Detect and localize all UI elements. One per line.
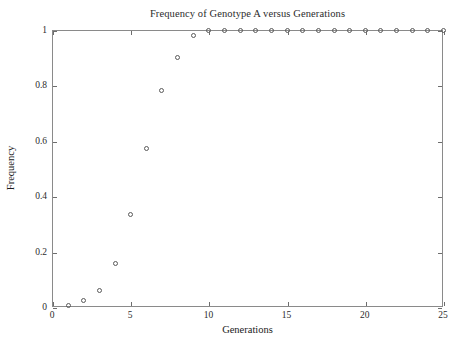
- data-point-marker: [113, 261, 118, 266]
- data-point-marker: [425, 28, 430, 33]
- y-tick-mark: [53, 86, 57, 87]
- y-tick-mark: [438, 197, 442, 198]
- x-tick-label: 10: [204, 310, 214, 320]
- x-tick-mark: [444, 302, 445, 306]
- data-point-marker: [144, 146, 149, 151]
- x-tick-label: 5: [128, 310, 133, 320]
- y-tick-mark: [438, 253, 442, 254]
- data-series-markers: [53, 31, 442, 306]
- data-point-marker: [394, 28, 399, 33]
- y-axis-label: Frequency: [5, 146, 16, 190]
- x-tick-mark: [444, 31, 445, 35]
- x-tick-mark: [366, 302, 367, 306]
- y-tick-label: 1: [42, 25, 47, 35]
- data-point-marker: [300, 28, 305, 33]
- data-point-marker: [81, 298, 86, 303]
- y-tick-label: 0.4: [35, 191, 47, 201]
- y-tick-mark: [53, 142, 57, 143]
- x-tick-mark: [53, 302, 54, 306]
- y-tick-label: 0.6: [35, 136, 47, 146]
- x-tick-label: 25: [438, 310, 448, 320]
- x-tick-label: 15: [282, 310, 292, 320]
- data-point-marker: [175, 55, 180, 60]
- x-tick-mark: [209, 31, 210, 35]
- y-tick-mark: [53, 253, 57, 254]
- x-tick-mark: [131, 302, 132, 306]
- y-tick-mark: [438, 31, 442, 32]
- chart-title: Frequency of Genotype A versus Generatio…: [52, 8, 443, 19]
- data-point-marker: [191, 33, 196, 38]
- x-tick-label: 20: [360, 310, 370, 320]
- data-point-marker: [347, 28, 352, 33]
- x-tick-mark: [288, 31, 289, 35]
- data-point-marker: [332, 28, 337, 33]
- data-point-marker: [128, 212, 133, 217]
- data-point-marker: [222, 28, 227, 33]
- data-point-marker: [159, 88, 164, 93]
- data-point-marker: [238, 28, 243, 33]
- x-tick-mark: [131, 31, 132, 35]
- plot-area: [52, 30, 443, 307]
- data-point-marker: [253, 28, 258, 33]
- data-point-marker: [269, 28, 274, 33]
- y-tick-mark: [53, 31, 57, 32]
- y-tick-mark: [438, 308, 442, 309]
- data-point-marker: [410, 28, 415, 33]
- y-tick-label: 0.8: [35, 80, 47, 90]
- y-tick-label: 0: [42, 302, 47, 312]
- y-tick-mark: [438, 142, 442, 143]
- x-tick-mark: [288, 302, 289, 306]
- x-tick-label: 0: [50, 310, 55, 320]
- x-tick-mark: [366, 31, 367, 35]
- data-point-marker: [66, 303, 71, 308]
- y-tick-mark: [53, 197, 57, 198]
- y-tick-mark: [438, 86, 442, 87]
- x-axis-label: Generations: [52, 324, 443, 335]
- data-point-marker: [378, 28, 383, 33]
- data-point-marker: [97, 288, 102, 293]
- data-point-marker: [316, 28, 321, 33]
- y-tick-label: 0.2: [35, 247, 47, 257]
- y-tick-mark: [53, 308, 57, 309]
- figure-canvas: Frequency of Genotype A versus Generatio…: [0, 0, 469, 344]
- x-tick-mark: [209, 302, 210, 306]
